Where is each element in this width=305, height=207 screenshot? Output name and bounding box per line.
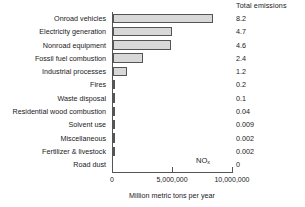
total-emissions-value: 0.04 (236, 105, 276, 118)
annotation-text: NO (196, 156, 207, 165)
bar-row (113, 132, 232, 145)
category-label: Nonroad equipment (0, 39, 109, 52)
category-label: Industrial processes (0, 65, 109, 78)
bar-series (113, 12, 232, 172)
total-emissions-value: 0.002 (236, 132, 276, 145)
bar-row (113, 118, 232, 131)
bar (113, 14, 213, 23)
total-emissions-value: 0.2 (236, 78, 276, 91)
total-emissions-value: 0.009 (236, 118, 276, 131)
bar-row (113, 65, 232, 78)
bar-row (113, 78, 232, 91)
total-emissions-value: 8.2 (236, 12, 276, 25)
bar-row (113, 92, 232, 105)
plot-area: 05,000,00010,000,000NOx (112, 12, 232, 172)
bar (113, 40, 171, 49)
total-emissions-value: 4.6 (236, 39, 276, 52)
x-tick-label: 5,000,000 (156, 176, 187, 183)
bar-row (113, 25, 232, 38)
category-label: Solvent use (0, 118, 109, 131)
x-axis-title: Million metric tons per year (112, 191, 232, 200)
total-emissions-value: 1.2 (236, 65, 276, 78)
series-annotation-nox: NOx (196, 156, 210, 165)
total-emissions-value: 4.7 (236, 25, 276, 38)
total-emissions-value: 2.4 (236, 52, 276, 65)
bar-row (113, 145, 232, 158)
total-emissions-header: Total emissions (236, 1, 302, 10)
category-label: Waste disposal (0, 92, 109, 105)
x-tick (112, 167, 113, 173)
bar (113, 133, 115, 142)
category-label: Fertilizer & livestock (0, 145, 109, 158)
x-tick-label: 0 (110, 176, 114, 183)
category-label: Miscellaneous (0, 132, 109, 145)
x-tick (232, 167, 233, 173)
category-label: Residential wood combustion (0, 105, 109, 118)
total-emissions-values: 8.24.74.62.41.20.20.10.040.0090.0020.002… (236, 12, 276, 172)
bar (113, 93, 115, 102)
bar (113, 147, 115, 156)
x-tick-label: 10,000,000 (214, 176, 249, 183)
bar (113, 53, 143, 62)
category-label: Fires (0, 78, 109, 91)
category-label: Road dust (0, 158, 109, 171)
bar (113, 67, 127, 76)
bar (113, 27, 172, 36)
bar-row (113, 12, 232, 25)
category-label: Electricity generation (0, 25, 109, 38)
bar (113, 107, 115, 116)
emissions-bar-chart: Total emissions Onroad vehiclesElectrici… (0, 0, 305, 207)
category-label: Onroad vehicles (0, 12, 109, 25)
total-emissions-value: 0.1 (236, 92, 276, 105)
category-label: Fossil fuel combustion (0, 52, 109, 65)
bar (113, 120, 115, 129)
annotation-subscript: x (207, 159, 210, 165)
total-emissions-value: 0 (236, 158, 276, 171)
bar-row (113, 105, 232, 118)
bar-row (113, 39, 232, 52)
bar (113, 80, 115, 89)
bar-row (113, 52, 232, 65)
x-tick (172, 167, 173, 173)
category-axis-labels: Onroad vehiclesElectricity generationNon… (0, 12, 109, 172)
total-emissions-value: 0.002 (236, 145, 276, 158)
